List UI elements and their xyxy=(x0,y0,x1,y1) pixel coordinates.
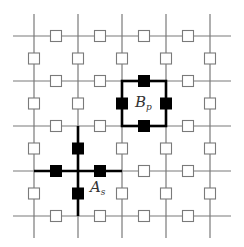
open-qubit-icon xyxy=(183,121,194,132)
open-qubit-icon xyxy=(73,98,84,109)
star-operator xyxy=(34,126,122,216)
filled-qubit-icon xyxy=(72,143,84,155)
open-qubit-icon xyxy=(29,188,40,199)
filled-qubit-icon xyxy=(50,165,62,177)
filled-qubit-icon xyxy=(160,98,172,110)
open-qubit-icon xyxy=(29,53,40,64)
open-qubit-icon xyxy=(51,121,62,132)
filled-qubit-markers xyxy=(50,75,172,200)
open-qubit-icon xyxy=(205,188,216,199)
filled-qubit-icon xyxy=(116,98,128,110)
filled-qubit-icon xyxy=(138,75,150,87)
open-qubit-icon xyxy=(117,143,128,154)
plaquette-label-main: B xyxy=(135,93,146,111)
open-qubit-icon xyxy=(117,188,128,199)
open-qubit-icon xyxy=(95,31,106,42)
open-qubit-icon xyxy=(161,53,172,64)
open-qubit-icon xyxy=(139,211,150,222)
filled-qubit-icon xyxy=(138,120,150,132)
filled-qubit-icon xyxy=(72,188,84,200)
lattice-svg xyxy=(0,0,244,247)
open-qubit-icon xyxy=(95,121,106,132)
open-qubit-icon xyxy=(205,53,216,64)
open-qubit-icon xyxy=(183,76,194,87)
open-qubit-icon xyxy=(183,211,194,222)
open-qubit-icon xyxy=(161,188,172,199)
open-qubit-icon xyxy=(95,211,106,222)
star-label: As xyxy=(90,180,105,197)
open-qubit-icon xyxy=(95,76,106,87)
open-qubit-icon xyxy=(73,53,84,64)
open-qubit-icon xyxy=(183,31,194,42)
plaquette-label-sub: p xyxy=(146,102,152,112)
open-qubit-icon xyxy=(161,143,172,154)
open-qubit-icon xyxy=(51,31,62,42)
open-qubit-icon xyxy=(139,166,150,177)
open-qubit-icon xyxy=(139,31,150,42)
open-qubit-icon xyxy=(29,143,40,154)
toric-code-diagram: Bp As xyxy=(0,0,244,247)
open-qubit-icon xyxy=(117,53,128,64)
open-qubit-icon xyxy=(29,98,40,109)
star-label-sub: s xyxy=(101,187,106,197)
plaquette-label: Bp xyxy=(135,95,152,112)
open-qubit-icon xyxy=(183,166,194,177)
open-qubit-icon xyxy=(205,143,216,154)
filled-qubit-icon xyxy=(94,165,106,177)
open-qubit-icon xyxy=(51,76,62,87)
star-label-main: A xyxy=(90,178,101,196)
open-qubit-icon xyxy=(205,98,216,109)
open-qubit-icon xyxy=(51,211,62,222)
